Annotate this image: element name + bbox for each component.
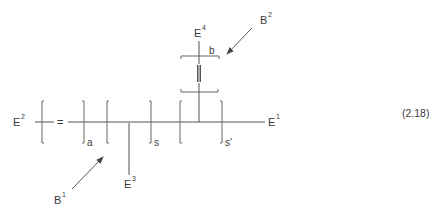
polymer-structure-diagram: E 2 = a s E 3 s' b xyxy=(0,0,448,214)
arrow-B2: B 2 xyxy=(227,11,272,54)
upper-bracket-top xyxy=(181,56,219,59)
arrow-icon xyxy=(227,28,252,54)
upper-repeat-unit-b: b xyxy=(181,45,219,92)
svg-text:1: 1 xyxy=(276,113,280,120)
svg-text:3: 3 xyxy=(132,175,136,182)
repeat-unit-a: = a xyxy=(42,101,93,148)
svg-text:4: 4 xyxy=(202,24,206,31)
subscript-b: b xyxy=(209,45,215,56)
equation-number: (2.18) xyxy=(402,107,429,119)
arrow-icon xyxy=(72,157,103,189)
svg-text:E: E xyxy=(194,27,201,39)
repeat-unit-s: s xyxy=(107,101,159,175)
subscript-a: a xyxy=(87,137,93,148)
label-E3: E 3 xyxy=(124,175,136,190)
subscript-s: s xyxy=(154,137,159,148)
subscript-s-prime: s' xyxy=(225,137,232,148)
svg-text:E: E xyxy=(124,178,131,190)
svg-text:2: 2 xyxy=(21,113,25,120)
label-E4: E 4 xyxy=(194,24,206,56)
svg-text:B: B xyxy=(260,14,267,26)
svg-text:2: 2 xyxy=(268,11,272,18)
svg-text:E: E xyxy=(13,116,20,128)
label-E2: E 2 xyxy=(13,113,25,128)
label-E1: E 1 xyxy=(268,113,280,128)
repeat-unit-s-prime: s' xyxy=(180,92,232,148)
svg-text:1: 1 xyxy=(62,191,66,198)
arrow-B1: B 1 xyxy=(54,157,103,206)
svg-text:E: E xyxy=(268,116,275,128)
double-bond-symbol: = xyxy=(57,116,63,128)
triple-bond xyxy=(198,65,201,82)
svg-text:B: B xyxy=(54,194,61,206)
